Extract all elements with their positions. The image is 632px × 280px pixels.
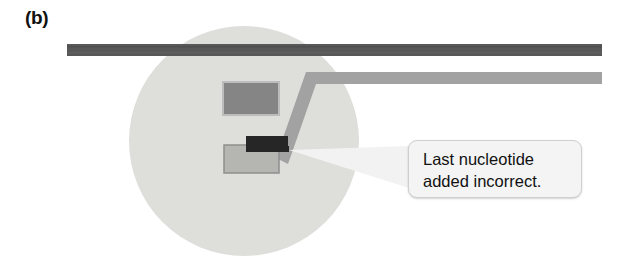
mismatched-nucleotide-notch [283,146,289,152]
figure-panel-b: (b) Last nucleotide added incorrect. [0,0,632,280]
polymerase-upper-domain [223,82,279,115]
callout-box: Last nucleotide added incorrect. [408,140,582,198]
mismatched-nucleotide [246,136,288,152]
template-strand [67,44,602,56]
panel-label: (b) [25,8,48,27]
callout-text: Last nucleotide added incorrect. [423,148,575,192]
magnified-region-circle [129,26,359,256]
